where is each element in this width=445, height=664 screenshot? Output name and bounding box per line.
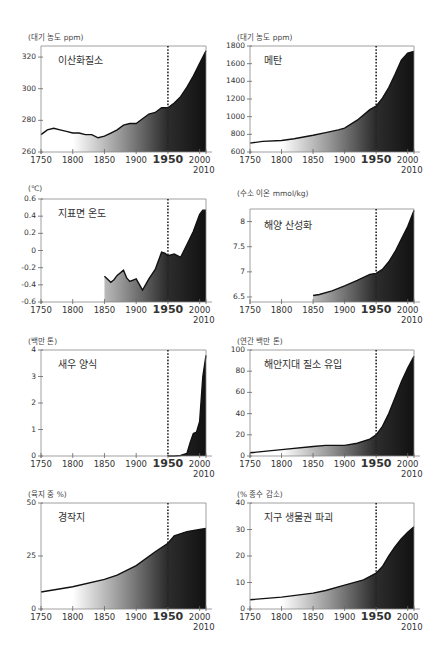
y-tick-label: 30 [215, 525, 245, 534]
x-tick-label: 2010 [401, 622, 423, 632]
y-tick-label: 40 [215, 498, 245, 507]
x-tick-label: 1750 [239, 612, 261, 622]
x-tick-label: 1800 [271, 612, 293, 622]
x-tick-label: 1900 [334, 612, 356, 622]
area-fill [250, 527, 414, 609]
y-tick-label: 20 [215, 551, 245, 560]
y-tick-label: 10 [215, 578, 245, 587]
x-tick-label: 1950 [361, 610, 392, 623]
x-tick-label: 1850 [302, 612, 324, 622]
x-tick-label: 2000 [397, 612, 419, 622]
chart-plot-area [0, 0, 445, 664]
